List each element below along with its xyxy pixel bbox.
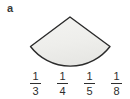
fraction-one-eighth: 1 8 xyxy=(111,70,122,97)
sector-shape-path xyxy=(31,17,111,66)
answer-choices-row: 1 3 1 4 1 5 1 8 xyxy=(0,70,130,99)
answer-choice-4[interactable]: 1 8 xyxy=(103,70,130,97)
fraction-numerator: 1 xyxy=(113,70,119,82)
fraction-one-third: 1 3 xyxy=(30,70,41,97)
worksheet-question-panel: a 1 3 1 4 xyxy=(0,0,130,99)
fraction-numerator: 1 xyxy=(59,70,65,82)
fraction-denominator: 4 xyxy=(59,85,65,97)
answer-choice-3[interactable]: 1 5 xyxy=(76,70,103,97)
fraction-bar xyxy=(30,83,41,84)
fraction-one-fourth: 1 4 xyxy=(57,70,68,97)
fraction-bar xyxy=(57,83,68,84)
fraction-bar xyxy=(111,83,122,84)
fraction-denominator: 5 xyxy=(86,85,92,97)
fraction-one-fifth: 1 5 xyxy=(84,70,95,97)
answer-choice-2[interactable]: 1 4 xyxy=(49,70,76,97)
sector-svg xyxy=(0,0,130,75)
sector-figure xyxy=(0,0,130,75)
answer-choice-1[interactable]: 1 3 xyxy=(22,70,49,97)
fraction-denominator: 8 xyxy=(113,85,119,97)
fraction-bar xyxy=(84,83,95,84)
fraction-numerator: 1 xyxy=(86,70,92,82)
fraction-denominator: 3 xyxy=(32,85,38,97)
fraction-numerator: 1 xyxy=(32,70,38,82)
